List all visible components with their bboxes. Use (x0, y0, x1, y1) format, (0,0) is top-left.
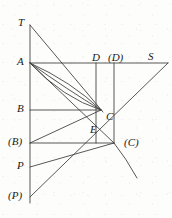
point-label-P: P (17, 160, 24, 171)
point-label-B: B (17, 103, 24, 114)
point-label-T: T (18, 17, 24, 28)
point-label-D: D (92, 52, 100, 63)
point-label-S: S (148, 51, 154, 62)
curve-Cp-tail (114, 143, 137, 178)
geometry-diagram (0, 0, 172, 218)
point-label-A: A (17, 56, 24, 67)
point-label-Bp: (B) (8, 136, 22, 147)
curve-A-to-C-2 (30, 63, 101, 110)
curves-group (30, 63, 137, 178)
point-label-Pp: (P) (8, 190, 22, 201)
point-label-C: C (106, 111, 113, 122)
point-label-Dp: (D) (108, 52, 123, 63)
point-label-E: E (90, 124, 97, 135)
figure-canvas: TAD(D)SBCE(B)(C)P(P) (0, 0, 172, 218)
line-P-to-Cp (30, 143, 114, 167)
point-label-Cp: (C) (124, 137, 139, 148)
